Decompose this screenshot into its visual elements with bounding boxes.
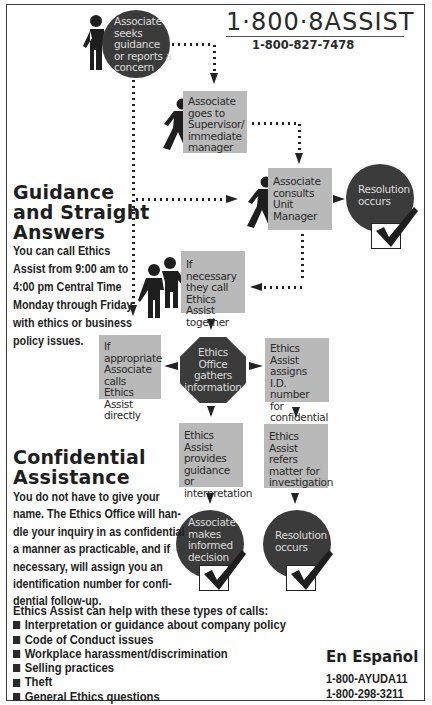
main-phone-number: 1·800·8ASSIST [226,8,414,36]
list-item: Interpretation or guidance about company… [13,618,286,632]
bullet-square-icon [13,636,20,644]
connector-unit-together-h [262,286,302,289]
help-types-intro: Ethics Assist can help with these types … [13,604,286,618]
connector-supervisor-unit-v [298,122,301,156]
unit-manager-node: Associate consults Unit Manager [268,168,332,230]
confidential-heading: Confidential Assistance [13,447,146,487]
connector-supervisor-unit-h [250,122,300,125]
arrow-down-icon [292,407,300,418]
arrow-down-icon [210,73,218,84]
confidential-body: You do not have to give your name. The E… [13,489,184,611]
list-item: Workplace harassment/discrimination [13,647,286,661]
provides-guidance-node: Ethics Assist provides guidance or inter… [179,423,243,487]
espanol-number-2: 1-800-298-3211 [326,687,404,701]
unit-manager-node-text: Associate consults Unit Manager [273,175,321,222]
provides-guidance-node-text: Ethics Assist provides guidance or inter… [184,429,252,499]
bullet-square-icon [13,650,20,658]
connector-start-supervisor-v [213,43,216,75]
list-item: Selling practices [13,661,286,675]
arrow-right-icon [226,195,238,203]
resolution-top-text: Resolution occurs [358,184,408,207]
arrow-right-icon [249,362,263,370]
refers-matter-node-text: Ethics Assist refers matter for investig… [269,430,333,488]
start-node: Associate seeks guidance or reports a co… [102,10,170,78]
assign-id-node-text: Ethics Assist assigns I.D. number for co… [270,342,328,435]
assign-id-node: Ethics Assist assigns I.D. number for co… [265,338,329,402]
connector-unit-together-v [301,232,304,282]
arrow-left-icon [250,283,262,291]
help-types-list: Ethics Assist can help with these types … [13,604,286,704]
guidance-body: You can call Ethics Assist from 9:00 am … [13,242,132,350]
bullet-square-icon [13,679,20,687]
connector-start-supervisor-h [170,43,214,46]
supervisor-node: Associate goes to Supervisor/ immediate … [183,91,247,153]
call-together-node-text: If necessary they call Ethics Assist tog… [186,258,237,328]
espanol-heading: En Español [326,648,418,666]
arrow-right-icon [333,195,345,203]
bullet-square-icon [13,693,20,701]
ethics-office-node-text: Ethics Office gathers information [184,347,242,393]
refers-matter-node: Ethics Assist refers matter for investig… [264,424,328,488]
arrow-left-icon [164,362,178,370]
start-node-text: Associate seeks guidance or reports a co… [114,16,172,74]
arrow-down-icon [291,493,299,504]
guidance-heading: Guidance and Straight Answers [13,182,150,242]
checkmark-icon [202,548,248,592]
call-together-node: If necessary they call Ethics Assist tog… [181,251,245,313]
header-underline [226,36,404,37]
bullet-square-icon [13,664,20,672]
arrow-down-icon [295,153,303,164]
supervisor-node-text: Associate goes to Supervisor/ immediate … [188,95,244,153]
bullet-square-icon [13,621,20,629]
arrow-down-icon [206,493,214,504]
numeric-phone-number: 1-800-827-7478 [252,38,354,52]
list-item: General Ethics questions [13,690,286,704]
checkmark-icon [289,548,335,592]
list-item: Code of Conduct issues [13,633,286,647]
checkmark-icon [374,205,420,249]
list-item: Theft [13,675,286,689]
arrow-down-icon [207,406,215,417]
espanol-number-1: 1-800-AYUDA11 [326,672,408,686]
arrow-down-icon [207,319,215,330]
